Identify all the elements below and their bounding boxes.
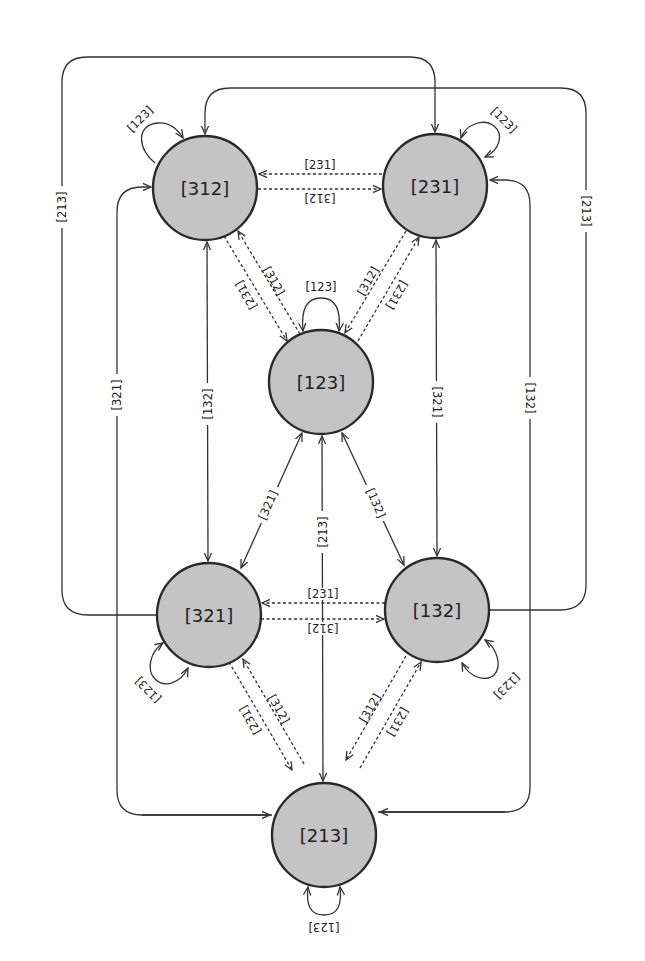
edge-123-321: [321] — [241, 433, 302, 568]
edge-label: [231] — [232, 278, 260, 312]
edge-321-to-231: [213] — [51, 57, 435, 615]
edge-label: [231] — [305, 158, 336, 172]
edge-label: [312] — [356, 691, 384, 725]
edge-label: [123] — [309, 920, 340, 934]
node-label: [312] — [181, 178, 229, 199]
edge-label: [312] — [305, 191, 336, 205]
edge-label: [312] — [308, 621, 339, 635]
node-321[interactable]: [321] — [157, 563, 261, 667]
edge-132-to-213: [312] — [346, 656, 406, 760]
edge-123-132: [132] — [342, 433, 404, 565]
edge-321-to-132: [312] — [261, 619, 384, 635]
edge-label: [123] — [491, 670, 523, 702]
edge-label: [132] — [201, 389, 215, 420]
edge-label: [312] — [260, 264, 288, 298]
edge-123-213: [213] — [312, 436, 334, 781]
node-label: [231] — [411, 176, 459, 197]
edge-312-to-231: [312] — [258, 189, 381, 205]
edge-label: [123] — [488, 104, 520, 136]
edge-231-to-312: [231] — [259, 158, 382, 174]
edge-312-321: [132] — [197, 242, 219, 561]
edge-label: [231] — [383, 278, 411, 312]
edge-label: [312] — [265, 692, 293, 726]
edge-label: [321] — [110, 380, 124, 411]
edge-label: [123] — [306, 280, 337, 294]
self-loop-123: [123] — [303, 280, 340, 331]
node-label: [213] — [300, 825, 348, 846]
edge-label: [213] — [55, 192, 69, 223]
edge-label: [312] — [354, 264, 382, 298]
edge-label: [321] — [430, 387, 444, 418]
edge-231-132: [321] — [426, 240, 448, 556]
node-312[interactable]: [312] — [153, 136, 257, 240]
edge-label: [231] — [308, 587, 339, 601]
edge-label: [213] — [316, 517, 330, 548]
node-132[interactable]: [132] — [385, 558, 489, 662]
edge-label: [123] — [124, 103, 156, 135]
edge-label: [213] — [579, 196, 593, 227]
edge-label: [123] — [132, 674, 164, 706]
edge-label: [231] — [384, 705, 412, 739]
state-diagram: [213] [213] [321] [132] [132] [321] [321… — [0, 0, 645, 961]
edge-label: [132] — [523, 383, 537, 414]
edge-label: [231] — [236, 703, 264, 737]
node-213[interactable]: [213] — [272, 783, 376, 887]
node-123[interactable]: [123] — [269, 330, 373, 434]
self-loop-213: [123] — [308, 887, 341, 934]
node-label: [132] — [413, 600, 461, 621]
node-231[interactable]: [231] — [383, 134, 487, 238]
edge-123-to-312: [312] — [238, 231, 300, 334]
node-label: [321] — [185, 605, 233, 626]
node-label: [123] — [297, 372, 345, 393]
edge-132-to-321: [231] — [262, 587, 385, 603]
